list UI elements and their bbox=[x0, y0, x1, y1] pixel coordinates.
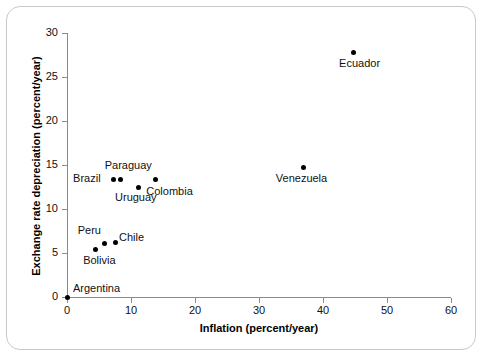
x-tick-label: 50 bbox=[374, 304, 400, 316]
y-tick-mark bbox=[62, 253, 67, 254]
x-tick-label: 40 bbox=[310, 304, 336, 316]
data-point[interactable] bbox=[136, 185, 141, 190]
y-axis-line bbox=[67, 33, 68, 298]
data-point[interactable] bbox=[153, 177, 158, 182]
x-tick-label: 30 bbox=[246, 304, 272, 316]
data-point-label: Venezuela bbox=[276, 172, 327, 184]
x-tick-mark bbox=[259, 298, 260, 303]
data-point[interactable] bbox=[93, 247, 98, 252]
y-tick-mark bbox=[62, 33, 67, 34]
scatter-chart: 051015202530 0102030405060 ArgentinaBoli… bbox=[0, 0, 489, 362]
y-axis-title: Exchange rate depreciation (percent/year… bbox=[30, 31, 42, 301]
data-point-label: Paraguay bbox=[105, 159, 152, 171]
data-point[interactable] bbox=[113, 240, 118, 245]
data-point[interactable] bbox=[301, 165, 306, 170]
y-tick-mark bbox=[62, 77, 67, 78]
x-tick-label: 10 bbox=[118, 304, 144, 316]
x-tick-mark bbox=[387, 298, 388, 303]
x-tick-mark bbox=[323, 298, 324, 303]
x-tick-mark bbox=[451, 298, 452, 303]
x-axis-title: Inflation (percent/year) bbox=[67, 322, 451, 334]
data-point[interactable] bbox=[65, 295, 70, 300]
data-point[interactable] bbox=[102, 241, 107, 246]
y-tick-mark bbox=[62, 121, 67, 122]
data-point-label: Bolivia bbox=[83, 254, 115, 266]
x-tick-label: 20 bbox=[182, 304, 208, 316]
y-tick-mark bbox=[62, 165, 67, 166]
x-tick-label: 0 bbox=[54, 304, 80, 316]
x-tick-mark bbox=[131, 298, 132, 303]
data-point-label: Chile bbox=[119, 231, 144, 243]
data-point-label: Colombia bbox=[146, 185, 192, 197]
data-point-label: Argentina bbox=[73, 282, 120, 294]
data-point[interactable] bbox=[351, 50, 356, 55]
data-point[interactable] bbox=[118, 177, 123, 182]
y-tick-mark bbox=[62, 209, 67, 210]
data-point-label: Peru bbox=[78, 224, 101, 236]
data-point-label: Brazil bbox=[73, 172, 101, 184]
x-tick-mark bbox=[195, 298, 196, 303]
data-point-label: Ecuador bbox=[339, 57, 380, 69]
data-point[interactable] bbox=[111, 177, 116, 182]
x-tick-label: 60 bbox=[438, 304, 464, 316]
